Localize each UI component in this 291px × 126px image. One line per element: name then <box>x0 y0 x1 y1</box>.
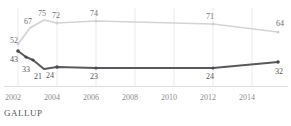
data-point-upper <box>277 31 280 34</box>
data-point-lower <box>31 58 34 61</box>
gallup-line-chart: 52 67 75 72 74 71 64 43 33 21 24 23 24 3… <box>0 0 291 126</box>
series-markers-lower <box>16 49 280 69</box>
data-label-upper-72: 72 <box>52 11 60 20</box>
data-label-lower-33: 33 <box>22 65 30 74</box>
data-label-upper-52: 52 <box>10 36 18 45</box>
data-point-upper <box>212 23 215 26</box>
x-tick-2012: 2012 <box>200 93 216 102</box>
data-point-lower <box>55 65 58 68</box>
data-point-upper <box>56 22 59 25</box>
x-tick-2014: 2014 <box>239 93 255 102</box>
data-label-lower-24a: 24 <box>46 71 54 80</box>
data-label-lower-23: 23 <box>90 72 98 81</box>
data-point-lower <box>276 60 280 64</box>
x-tick-2002: 2002 <box>5 93 21 102</box>
data-label-upper-71: 71 <box>206 12 214 21</box>
data-point-lower <box>24 55 27 58</box>
x-tick-2004: 2004 <box>44 93 60 102</box>
data-label-upper-75: 75 <box>38 9 46 18</box>
data-label-lower-24b: 24 <box>206 72 214 81</box>
data-label-upper-74: 74 <box>90 9 98 18</box>
data-point-lower <box>16 49 20 53</box>
data-label-upper-67: 67 <box>24 17 32 26</box>
x-axis-tick-labels: 2002 2004 2006 2008 2010 2012 2014 <box>5 93 255 102</box>
chart-plot-area: 52 67 75 72 74 71 64 43 33 21 24 23 24 3… <box>0 0 291 126</box>
data-point-lower <box>211 66 214 69</box>
data-label-lower-43: 43 <box>10 55 18 64</box>
data-label-lower-32: 32 <box>275 67 283 76</box>
gallup-logo: GALLUP <box>4 108 43 118</box>
data-point-lower <box>94 66 97 69</box>
data-label-lower-21: 21 <box>34 72 42 81</box>
series-markers-upper <box>17 20 280 46</box>
data-point-upper <box>95 20 98 23</box>
x-tick-2008: 2008 <box>122 93 138 102</box>
x-tick-2006: 2006 <box>83 93 99 102</box>
x-tick-2010: 2010 <box>161 93 177 102</box>
data-label-upper-64: 64 <box>276 19 284 28</box>
